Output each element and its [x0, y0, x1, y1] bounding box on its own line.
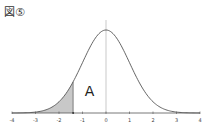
- x-tick-label: -3: [33, 117, 38, 123]
- x-tick-label: 0: [104, 117, 107, 123]
- x-tick-label: -2: [57, 117, 62, 123]
- x-tick-label: 1: [128, 117, 131, 123]
- boundary-point: [72, 112, 74, 114]
- x-tick-label: 2: [151, 117, 154, 123]
- area-label-a: A: [85, 83, 95, 99]
- x-tick-label: 3: [175, 117, 178, 123]
- shaded-tail-area: [12, 82, 73, 113]
- x-tick-label: -4: [10, 117, 15, 123]
- x-tick-label: -1: [80, 117, 85, 123]
- normal-distribution-chart: -4-3-2-101234A: [0, 0, 211, 131]
- x-tick-label: 4: [198, 117, 201, 123]
